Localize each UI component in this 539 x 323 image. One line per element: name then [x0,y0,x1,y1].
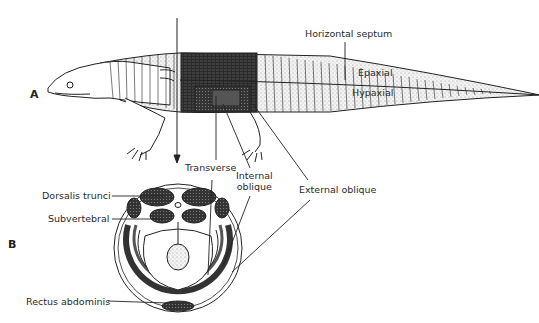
salamander-musculature-diagram [0,0,539,323]
label-transverse: Transverse [185,162,236,173]
cross-section [114,184,242,312]
label-horizontal-septum: Horizontal septum [305,28,392,39]
label-hypaxial: Hypaxial [352,87,393,98]
label-internal-oblique-line2: oblique [236,181,273,192]
label-epaxial: Epaxial [358,67,393,78]
label-external-oblique: External oblique [299,184,376,195]
label-rectus-abdominis: Rectus abdominis [26,296,110,307]
salamander-body [48,53,539,162]
panel-label-a: A [30,88,39,101]
label-internal-oblique: Internal oblique [236,170,273,192]
label-internal-oblique-line1: Internal [236,170,273,181]
label-dorsalis-trunci: Dorsalis trunci [42,190,111,201]
panel-label-b: B [8,238,16,251]
label-subvertebral: Subvertebral [48,213,109,224]
